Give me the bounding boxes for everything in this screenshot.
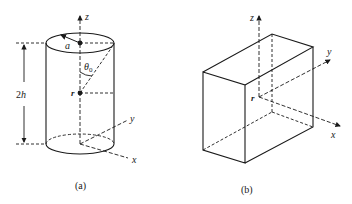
z-label-b: z bbox=[249, 12, 254, 23]
caption-a: (a) bbox=[75, 180, 86, 192]
hidden-edge-bottom-left bbox=[203, 112, 272, 150]
x-axis-b bbox=[259, 97, 340, 126]
point-r-label-b: r bbox=[251, 93, 255, 103]
box-right-face bbox=[245, 47, 313, 163]
panel-a-cylinder bbox=[16, 16, 128, 158]
theta-label: θ0 bbox=[84, 61, 93, 74]
point-r-label-a: r bbox=[71, 88, 75, 98]
x-label-b: x bbox=[330, 129, 336, 140]
panel-b-box bbox=[203, 16, 340, 163]
y-axis-b bbox=[259, 60, 330, 97]
height-label: 2h bbox=[16, 89, 26, 100]
radius-line bbox=[61, 35, 80, 43]
x-label-a: x bbox=[131, 154, 137, 165]
top-center-dot bbox=[78, 41, 83, 46]
cylinder-bottom-front bbox=[46, 144, 114, 154]
box-front-face bbox=[203, 72, 245, 163]
caption-b: (b) bbox=[241, 184, 253, 196]
z-label-a: z bbox=[84, 11, 89, 22]
x-axis-a bbox=[80, 144, 128, 158]
y-label-a: y bbox=[129, 113, 135, 124]
radius-label: a bbox=[65, 40, 70, 51]
y-label-b: y bbox=[326, 46, 332, 57]
point-r-dot-a bbox=[78, 91, 83, 96]
y-axis-a bbox=[80, 120, 128, 144]
figure-canvas: z a θ0 r 2h y x (a) z y r x (b) bbox=[0, 0, 352, 204]
